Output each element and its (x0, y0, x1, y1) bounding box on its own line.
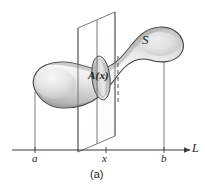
axis-name-label: L (192, 142, 199, 154)
axis-tick-label-x: x (102, 153, 107, 164)
figure-container: S A(x) a x b L (a) (0, 0, 205, 188)
axis-tick-label-b: b (161, 153, 167, 164)
solid-left-lobe-highlight (36, 69, 76, 99)
figure-caption: (a) (90, 169, 103, 180)
cross-section-label: A(x) (88, 70, 109, 81)
axis-tick-label-a: a (32, 153, 38, 164)
solid-label-s: S (142, 33, 149, 46)
